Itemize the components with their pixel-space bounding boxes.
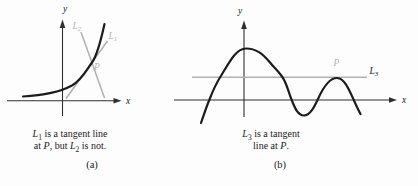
panel-b-x-axis-arrowhead (389, 97, 397, 103)
panel-a-y-axis-label: y (62, 4, 68, 14)
panel-a-point-p-label: P (93, 62, 100, 72)
figure-tag-b: (b) (250, 159, 310, 170)
caption-b-line2: line at P. (209, 140, 333, 152)
panel-a-y-axis-arrowhead (60, 20, 66, 29)
panel-b-y-axis-label: y (237, 6, 243, 16)
panel-a: x y L2 L1 P (7, 4, 131, 116)
label-l3: L3 (369, 66, 379, 78)
panel-b: x y P L3 (174, 6, 407, 123)
panel-a-x-axis-label: x (125, 96, 131, 106)
label-l2: L2 (72, 21, 82, 33)
caption-b-line1: L3 is a tangent (209, 128, 333, 140)
panel-b-y-axis-arrowhead (241, 21, 247, 30)
panel-b-x-axis-label: x (401, 95, 407, 105)
caption-a: L1 is a tangent line at P, but L2 is not… (8, 128, 132, 152)
figure-tag-a: (a) (62, 159, 122, 170)
caption-a-line2: at P, but L2 is not. (8, 140, 132, 152)
textbook-figure: x y L2 L1 P x y P (0, 0, 418, 186)
label-l1: L1 (108, 31, 118, 43)
panel-b-point-p-label: P (333, 58, 340, 68)
caption-b: L3 is a tangent line at P. (209, 128, 333, 152)
panel-a-curve (23, 24, 105, 97)
panel-a-x-axis-arrowhead (114, 98, 122, 104)
caption-a-line1: L1 is a tangent line (8, 128, 132, 140)
